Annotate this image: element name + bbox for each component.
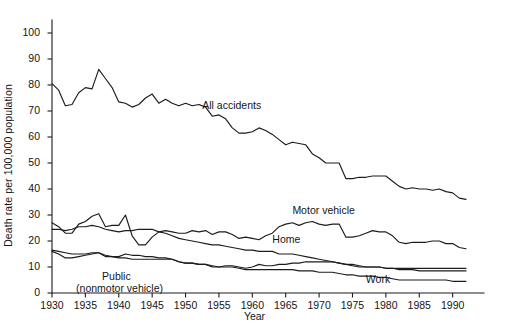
y-tick-label: 0 bbox=[10, 287, 40, 298]
y-tick-label: 30 bbox=[10, 209, 40, 220]
accident-death-rate-chart: Death rate per 100,000 population 010203… bbox=[0, 0, 509, 331]
y-tick-label: 10 bbox=[10, 261, 40, 272]
y-tick-label: 80 bbox=[10, 79, 40, 90]
series-line-public-nonmotor-vehicle bbox=[52, 250, 466, 268]
series-sublabel-public-nonmotor-vehicle: (nonmotor vehicle) bbox=[76, 282, 163, 294]
series-line-all-accidents bbox=[52, 69, 466, 199]
y-tick-label: 90 bbox=[10, 53, 40, 64]
series-label-home: Home bbox=[272, 233, 300, 245]
series-label-all-accidents: All accidents bbox=[202, 99, 261, 111]
axis-lines bbox=[52, 20, 484, 293]
series-label-public-nonmotor-vehicle: Public bbox=[102, 270, 131, 282]
series-label-work: Work bbox=[366, 273, 390, 285]
y-tick-label: 100 bbox=[10, 27, 40, 38]
x-axis-title: Year bbox=[0, 310, 509, 322]
y-tick-label: 50 bbox=[10, 157, 40, 168]
y-tick-label: 40 bbox=[10, 183, 40, 194]
y-tick-label: 60 bbox=[10, 131, 40, 142]
series-label-motor-vehicle: Motor vehicle bbox=[292, 204, 354, 216]
y-tick-label: 20 bbox=[10, 235, 40, 246]
y-tick-label: 70 bbox=[10, 105, 40, 116]
